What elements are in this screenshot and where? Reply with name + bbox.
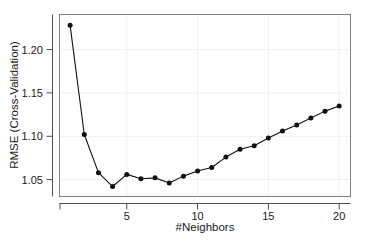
data-point	[195, 168, 200, 173]
y-tick-label: 1.10	[22, 130, 43, 142]
rmse-line-chart: 5101520 1.051.101.151.20 #Neighbors RMSE…	[0, 0, 365, 252]
data-point	[82, 132, 87, 137]
chart-figure: 5101520 1.051.101.151.20 #Neighbors RMSE…	[0, 0, 365, 252]
data-point	[110, 184, 115, 189]
data-point	[138, 176, 143, 181]
data-point	[308, 116, 313, 121]
data-point	[181, 174, 186, 179]
data-point	[323, 109, 328, 114]
data-point	[153, 175, 158, 180]
data-point	[167, 181, 172, 186]
data-point	[294, 123, 299, 128]
y-tick-label: 1.05	[22, 174, 43, 186]
data-point	[280, 129, 285, 134]
y-tick-label: 1.20	[22, 44, 43, 56]
y-axis-title: RMSE (Cross-Validation)	[8, 41, 20, 169]
x-axis-title: #Neighbors	[176, 221, 235, 233]
x-tick-label: 15	[262, 210, 274, 222]
data-point	[238, 147, 243, 152]
data-point	[337, 103, 342, 108]
data-point	[209, 165, 214, 170]
data-point	[252, 143, 257, 148]
chart-background	[0, 0, 365, 252]
data-point	[68, 23, 73, 28]
x-tick-label: 20	[333, 210, 345, 222]
data-point	[266, 136, 271, 141]
data-point	[124, 172, 129, 177]
y-tick-label: 1.15	[22, 87, 43, 99]
data-point	[223, 155, 228, 160]
x-tick-label: 5	[124, 210, 130, 222]
data-point	[96, 170, 101, 175]
